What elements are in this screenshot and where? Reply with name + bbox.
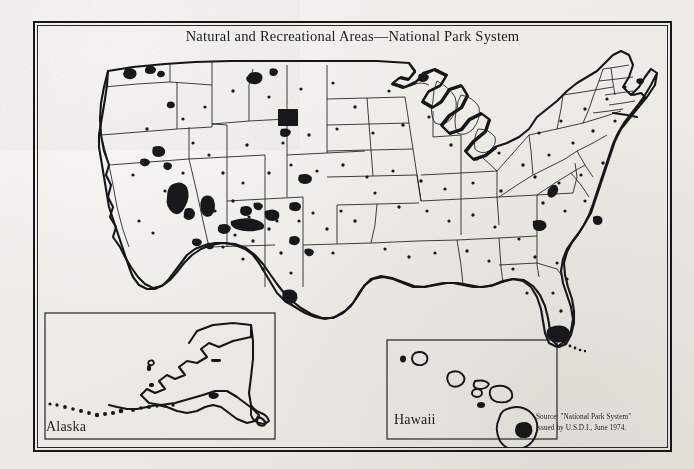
state-boundaries	[101, 61, 635, 287]
map-canvas: .coast{fill:none;stroke:#16151a;stroke-w…	[37, 25, 668, 448]
hawaii-inset	[387, 340, 557, 448]
source-attribution: Source: "National Park System" issued by…	[536, 412, 666, 433]
hawaii-inset-label: Hawaii	[394, 412, 436, 428]
source-line-2: issued by U.S.D.I., June 1974.	[536, 423, 666, 434]
source-line-1: Source: "National Park System"	[536, 412, 666, 423]
alaska-inset-label: Alaska	[46, 419, 86, 435]
